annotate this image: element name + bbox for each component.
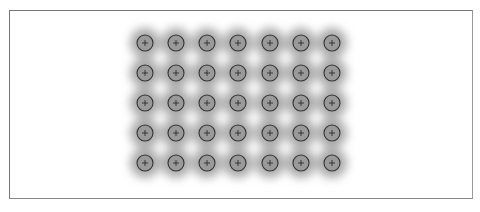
spot-marker [168, 125, 184, 141]
spot-marker [262, 35, 278, 51]
spot-marker [168, 155, 184, 171]
spot-marker [230, 125, 246, 141]
spot-marker [230, 155, 246, 171]
spot-marker [324, 155, 340, 171]
spot-marker [262, 155, 278, 171]
spot-marker [230, 95, 246, 111]
spot-marker [293, 65, 309, 81]
spot-marker [137, 35, 153, 51]
spot-marker [168, 95, 184, 111]
spot-marker [199, 155, 215, 171]
spot-marker [137, 125, 153, 141]
spot-marker [230, 35, 246, 51]
spot-array [0, 0, 480, 212]
spot-marker [199, 65, 215, 81]
spot-marker [293, 95, 309, 111]
spot-marker [199, 95, 215, 111]
spot-marker [324, 65, 340, 81]
spot-marker [293, 35, 309, 51]
spot-marker [168, 65, 184, 81]
spot-marker [324, 125, 340, 141]
spot-marker [324, 35, 340, 51]
spot-marker [262, 95, 278, 111]
spot-marker [293, 155, 309, 171]
spot-marker [324, 95, 340, 111]
spot-marker [293, 125, 309, 141]
spot-marker [137, 95, 153, 111]
spot-marker [262, 125, 278, 141]
spot-marker [137, 65, 153, 81]
spot-marker [168, 35, 184, 51]
spot-marker [137, 155, 153, 171]
spot-marker [230, 65, 246, 81]
spot-marker [199, 35, 215, 51]
spot-marker [262, 65, 278, 81]
spot-marker [199, 125, 215, 141]
